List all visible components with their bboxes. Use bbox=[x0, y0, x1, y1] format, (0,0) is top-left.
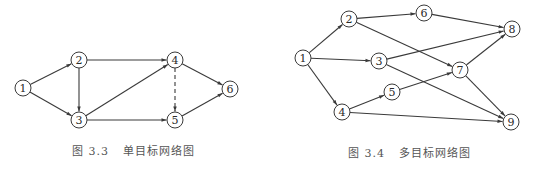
node-label: 2 bbox=[76, 54, 83, 67]
node-label: 1 bbox=[20, 82, 27, 95]
edge-2-to-6 bbox=[357, 14, 416, 19]
edge-5-to-7 bbox=[400, 73, 452, 90]
figure-caption-3-3: 图 3.3单目标网络图 bbox=[72, 142, 195, 158]
node-label: 8 bbox=[509, 23, 516, 36]
node-7: 7 bbox=[452, 62, 468, 78]
caption-title: 多目标网络图 bbox=[399, 147, 471, 160]
node-label: 1 bbox=[300, 52, 307, 65]
node-label: 9 bbox=[508, 116, 515, 129]
node-8: 8 bbox=[504, 21, 520, 37]
node-label: 4 bbox=[339, 106, 346, 119]
node-label: 6 bbox=[227, 83, 234, 96]
single-objective-network-graph: 123456 bbox=[15, 52, 238, 128]
node-label: 2 bbox=[346, 13, 353, 26]
figure-caption-3-4: 图 3.4多目标网络图 bbox=[348, 144, 471, 160]
node-label: 6 bbox=[421, 7, 428, 20]
edge-3-to-9 bbox=[386, 64, 503, 118]
node-6: 6 bbox=[416, 5, 432, 21]
node-label: 3 bbox=[76, 114, 83, 127]
edge-4-to-6 bbox=[182, 64, 222, 85]
edge-4-to-5 bbox=[349, 95, 384, 109]
node-label: 5 bbox=[389, 86, 396, 99]
caption-label: 图 3.3 bbox=[72, 145, 109, 158]
node-4: 4 bbox=[334, 104, 350, 120]
edge-4-to-9 bbox=[350, 113, 503, 122]
node-label: 5 bbox=[172, 114, 179, 127]
edge-1-to-3 bbox=[311, 58, 371, 60]
node-1: 1 bbox=[15, 80, 31, 96]
edge-1-to-4 bbox=[308, 65, 337, 106]
node-9: 9 bbox=[503, 114, 519, 130]
edge-5-to-6 bbox=[182, 93, 223, 116]
caption-title: 单目标网络图 bbox=[123, 145, 195, 158]
node-3: 3 bbox=[71, 112, 87, 128]
edge-6-to-8 bbox=[432, 14, 504, 27]
node-5: 5 bbox=[167, 112, 183, 128]
edge-1-to-2 bbox=[309, 25, 342, 53]
node-2: 2 bbox=[341, 11, 357, 27]
node-1: 1 bbox=[295, 50, 311, 66]
edge-1-to-2 bbox=[30, 64, 71, 85]
node-2: 2 bbox=[71, 52, 87, 68]
node-label: 7 bbox=[457, 64, 464, 77]
node-label: 4 bbox=[172, 54, 179, 67]
multi-objective-network-graph: 123456789 bbox=[295, 5, 520, 130]
edge-3-to-8 bbox=[387, 31, 504, 59]
node-label: 3 bbox=[376, 55, 383, 68]
edge-1-to-3 bbox=[30, 92, 72, 116]
caption-label: 图 3.4 bbox=[348, 147, 385, 160]
node-3: 3 bbox=[371, 53, 387, 69]
node-4: 4 bbox=[167, 52, 183, 68]
node-6: 6 bbox=[222, 81, 238, 97]
edge-3-to-4 bbox=[86, 65, 168, 116]
node-5: 5 bbox=[384, 84, 400, 100]
